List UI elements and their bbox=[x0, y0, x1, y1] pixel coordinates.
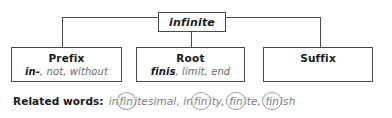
related-word-text-8: ish bbox=[280, 95, 295, 107]
root-box: Root finis, limit, end bbox=[136, 47, 245, 82]
word-map-diagram: infinite Prefix in-, not, without Root f… bbox=[0, 0, 392, 118]
root-meaning: , limit, end bbox=[176, 66, 231, 77]
prefix-term: in- bbox=[25, 66, 40, 77]
headword-box: infinite bbox=[158, 12, 226, 32]
connector-prefix-vertical bbox=[62, 17, 63, 48]
connector-left-horizontal bbox=[62, 17, 159, 18]
suffix-box: Suffix bbox=[263, 47, 373, 82]
related-word-text-6: ite, bbox=[244, 95, 265, 107]
headword-label: infinite bbox=[169, 17, 215, 28]
related-word-text-2: itesimal, in bbox=[134, 95, 193, 107]
circled-morpheme-3: fin bbox=[193, 95, 209, 107]
root-term: finis bbox=[151, 66, 176, 77]
prefix-meaning: , not, without bbox=[40, 66, 108, 77]
connector-right-horizontal bbox=[225, 17, 321, 18]
circled-morpheme-7: fin bbox=[264, 95, 280, 107]
circled-morpheme-5: fin bbox=[228, 95, 244, 107]
related-word-text-4: ity, bbox=[209, 95, 229, 107]
related-words-row: Related words: infinitesimal, infinity, … bbox=[13, 90, 295, 109]
suffix-title: Suffix bbox=[264, 51, 372, 65]
prefix-box: Prefix in-, not, without bbox=[11, 47, 122, 82]
prefix-title: Prefix bbox=[12, 51, 121, 65]
connector-root-vertical bbox=[191, 31, 192, 48]
related-word-text-0: in bbox=[109, 95, 119, 107]
prefix-detail: in-, not, without bbox=[12, 65, 121, 79]
related-words-label: Related words: bbox=[13, 95, 104, 107]
related-words-list: infinitesimal, infinity, finite, finish bbox=[109, 95, 296, 107]
circled-morpheme-1: fin bbox=[119, 95, 135, 107]
root-detail: finis, limit, end bbox=[137, 65, 244, 79]
root-title: Root bbox=[137, 51, 244, 65]
connector-suffix-vertical bbox=[320, 17, 321, 48]
